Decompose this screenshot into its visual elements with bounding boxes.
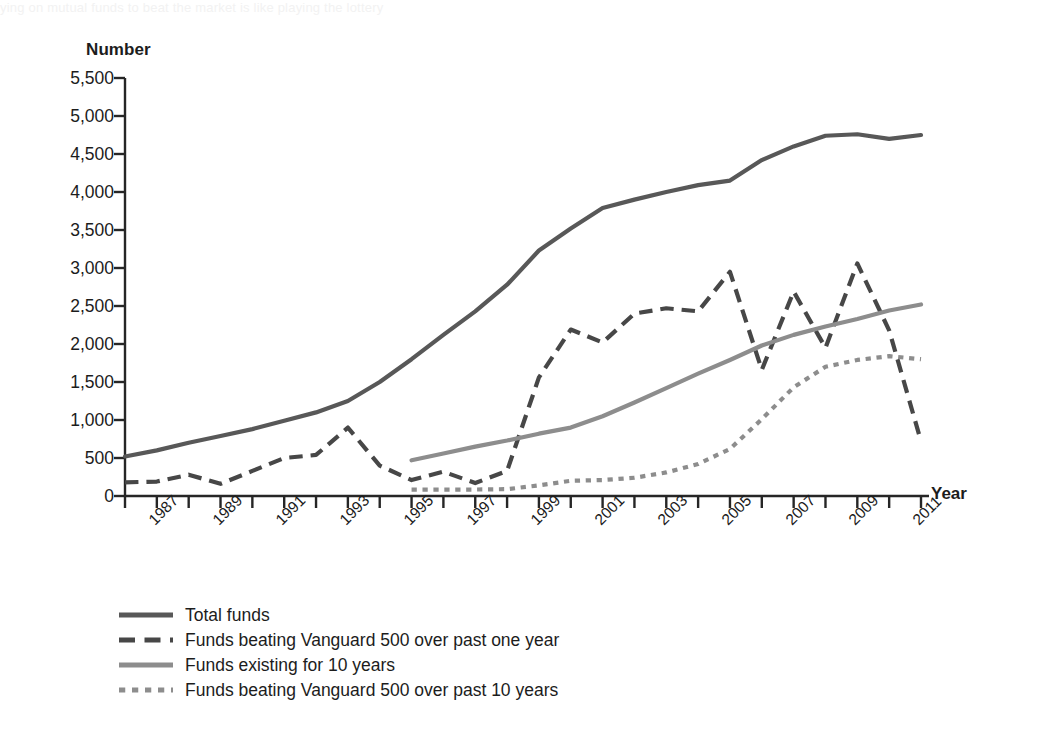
y-tick-label: 2,500 [28, 296, 114, 317]
series-line-1 [125, 263, 921, 483]
y-tick-label: 5,000 [28, 106, 114, 127]
legend-label: Funds existing for 10 years [185, 655, 395, 675]
legend-swatch-solid-icon [118, 607, 174, 623]
y-tick-label: 1,500 [28, 372, 114, 393]
y-tick-label: 3,000 [28, 258, 114, 279]
y-tick-label: 4,000 [28, 182, 114, 203]
legend-label: Total funds [185, 605, 270, 625]
series-line-0 [125, 134, 921, 456]
legend-item[interactable]: Total funds [118, 602, 678, 627]
series-line-2 [412, 304, 921, 460]
y-axis-tick-labels: 05001,0001,5002,0002,5003,0003,5004,0004… [28, 0, 114, 748]
legend-label: Funds beating Vanguard 500 over past 10 … [185, 680, 558, 700]
series-line-3 [412, 356, 921, 489]
chart-legend: Total fundsFunds beating Vanguard 500 ov… [118, 602, 678, 702]
y-tick-label: 2,000 [28, 334, 114, 355]
y-tick-label: 1,000 [28, 410, 114, 431]
legend-swatch-solid-icon [118, 657, 174, 673]
cut-off-header-text: ying on mutual funds to beat the market … [0, 0, 1054, 22]
y-tick-label: 5,500 [28, 68, 114, 89]
legend-item[interactable]: Funds beating Vanguard 500 over past 10 … [118, 677, 678, 702]
y-tick-label: 500 [28, 448, 114, 469]
y-tick-label: 0 [28, 486, 114, 507]
legend-swatch-dotted-icon [118, 682, 174, 698]
y-tick-label: 3,500 [28, 220, 114, 241]
legend-swatch-dashed-icon [118, 632, 174, 648]
legend-item[interactable]: Funds beating Vanguard 500 over past one… [118, 627, 678, 652]
legend-item[interactable]: Funds existing for 10 years [118, 652, 678, 677]
y-tick-label: 4,500 [28, 144, 114, 165]
chart-figure: ying on mutual funds to beat the market … [0, 0, 1054, 748]
legend-label: Funds beating Vanguard 500 over past one… [185, 630, 559, 650]
